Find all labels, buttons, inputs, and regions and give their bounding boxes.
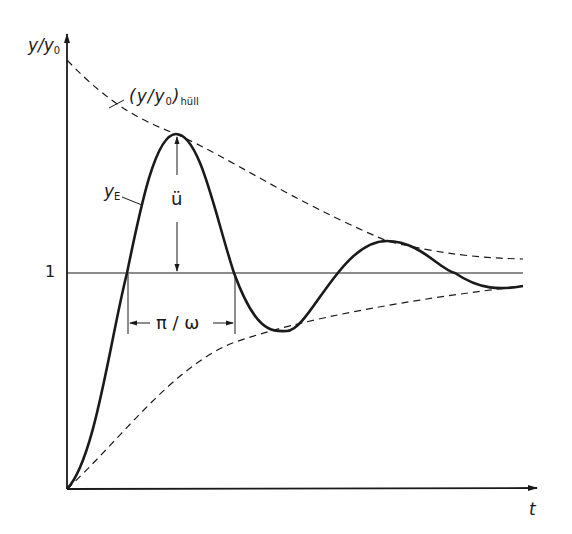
envelope-label-close: ): [173, 86, 181, 106]
x-axis: [67, 488, 537, 489]
envelope-label: (y/y0)hüll: [129, 88, 199, 107]
diagram-canvas: [0, 0, 572, 534]
curve-label-sub: E: [114, 191, 120, 202]
envelope-label-sub: hüll: [181, 96, 199, 107]
curve-label-text: y: [104, 181, 114, 201]
y-axis-label-text: y/y: [28, 35, 54, 55]
envelope-label-sub0: 0: [165, 96, 172, 107]
y-axis-label: y/y0: [28, 37, 60, 56]
curve-label: yE: [104, 183, 120, 202]
curve-leader: [122, 197, 142, 205]
x-axis-label: t: [529, 501, 536, 518]
overshoot-label: ü: [171, 190, 182, 208]
envelope-label-text: (y/y: [129, 86, 165, 106]
half-period-label: π / ω: [156, 314, 199, 332]
response-curve-yE: [67, 134, 523, 489]
y-tick-1: 1: [45, 264, 55, 280]
lower-envelope-curve: [67, 286, 523, 489]
y-axis-label-sub: 0: [54, 45, 60, 56]
